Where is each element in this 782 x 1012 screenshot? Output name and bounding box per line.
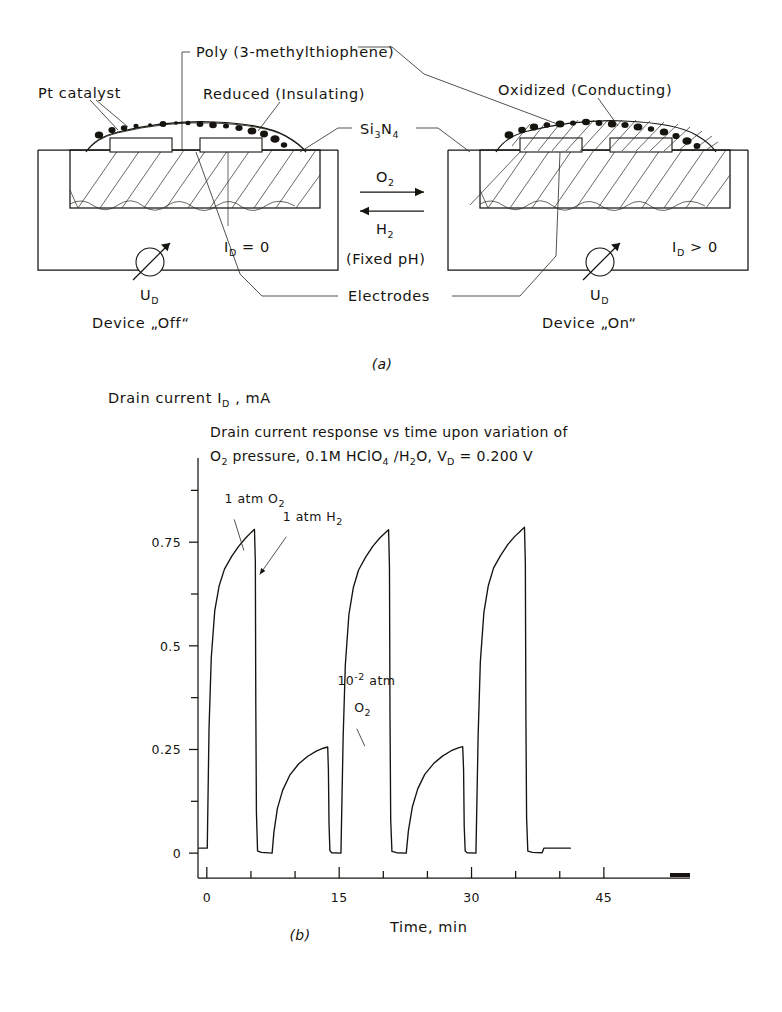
- device-off-group: [38, 121, 338, 280]
- electrode-lead-right: [470, 152, 520, 205]
- electrode-source-left: [110, 138, 172, 152]
- substrate-hatch-right: [480, 150, 730, 208]
- label-gas-h2: H2: [376, 221, 394, 240]
- panel-b-caption: (b): [289, 927, 310, 943]
- arrow-reverse-head: [360, 207, 369, 215]
- annotation-1e-2-atm-o2-line1: 10-2 atm: [337, 671, 395, 688]
- label-si3n4: Si3N4: [360, 121, 399, 140]
- annotation-1-atm-o2: 1 atm O2: [224, 491, 285, 509]
- electrode-drain-right: [610, 138, 672, 152]
- label-gas-o2: O2: [376, 169, 395, 188]
- ammeter-symbol-left: [136, 248, 164, 276]
- panel-a-device-schematic: Poly (3-methylthiophene) Pt catalyst Red…: [0, 0, 782, 380]
- figure-root: Poly (3-methylthiophene) Pt catalyst Red…: [0, 0, 782, 1012]
- chart-title-line1: Drain current response vs time upon vari…: [210, 424, 568, 440]
- device-on-group: [448, 119, 748, 280]
- label-device-off: Device „Off“: [92, 315, 190, 331]
- leader-si3n4-right: [416, 128, 470, 152]
- leader-1-atm-h2-head: [260, 568, 266, 574]
- label-id-on: ID > 0: [672, 239, 718, 258]
- label-poly: Poly (3-methylthiophene): [196, 44, 394, 60]
- substrate-body-left: [70, 150, 320, 208]
- chart-y-tick-label: 0.25: [152, 742, 181, 757]
- reaction-arrows: [360, 188, 424, 215]
- label-ud-right: UD: [590, 287, 609, 306]
- label-device-on: Device „On“: [542, 315, 637, 331]
- chart-x-tick-label: 45: [596, 890, 613, 905]
- leader-reduced: [258, 102, 280, 131]
- panel-b-chart: Drain current ID , mA Drain current resp…: [0, 380, 782, 1012]
- leader-1e-2-atm-o2: [357, 729, 365, 746]
- chart-title-line2: O2 pressure, 0.1M HClO4 /H2O, VD = 0.200…: [210, 448, 533, 467]
- annotation-1e-2-atm-o2-line2: O2: [354, 700, 371, 718]
- chart-plot-area: 00.250.50.750153045: [152, 458, 690, 905]
- panel-a-caption: (a): [372, 356, 393, 372]
- label-pt-catalyst: Pt catalyst: [38, 85, 121, 101]
- chart-x-tick-label: 15: [331, 890, 348, 905]
- annotation-1-atm-h2: 1 atm H2: [283, 509, 343, 527]
- chart-x-tick-label: 0: [203, 890, 211, 905]
- label-id-off: ID = 0: [224, 239, 270, 258]
- leader-electrodes-left: [196, 152, 338, 296]
- leader-1-atm-h2: [260, 537, 286, 575]
- ammeter-symbol-right: [586, 248, 614, 276]
- chart-data-curve: [199, 527, 570, 853]
- leader-si3n4-left: [300, 128, 338, 152]
- chart-y-axis-label: Drain current ID , mA: [108, 390, 271, 409]
- chart-x-tick-label: 30: [463, 890, 480, 905]
- label-electrodes: Electrodes: [348, 288, 430, 304]
- chart-x-axis-label: Time, min: [389, 919, 467, 935]
- arrow-forward-head: [415, 188, 424, 196]
- substrate-hatch-left: [70, 150, 320, 208]
- circuit-outline-left: [38, 150, 338, 270]
- substrate-body-right: [480, 150, 730, 208]
- label-ud-left: UD: [140, 287, 159, 306]
- label-oxidized: Oxidized (Conducting): [498, 82, 672, 98]
- chart-y-tick-label: 0.75: [152, 535, 181, 550]
- leader-pt-2: [96, 100, 128, 127]
- chart-y-tick-label: 0: [173, 846, 181, 861]
- electrode-drain-left: [200, 138, 262, 152]
- chart-annotation-layer: 1 atm O21 atm H210-2 atmO2: [224, 491, 395, 746]
- chart-y-tick-label: 0.5: [160, 639, 181, 654]
- label-fixed-ph: (Fixed pH): [346, 251, 426, 267]
- label-reduced: Reduced (Insulating): [203, 86, 365, 102]
- leader-electrodes-right: [452, 152, 560, 296]
- electrode-source-right: [520, 138, 582, 152]
